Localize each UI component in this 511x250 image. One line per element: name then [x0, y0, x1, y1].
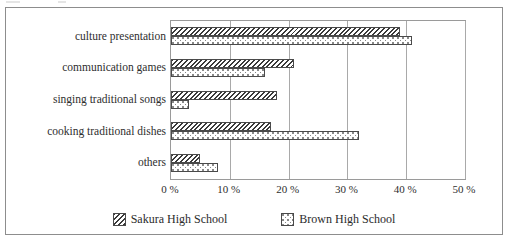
x-tick-label-50: 50 %	[453, 182, 476, 196]
bar-brown	[171, 68, 265, 77]
x-tick-label-20: 20 %	[276, 182, 299, 196]
hatch-swatch-icon	[113, 213, 126, 226]
category-label: communication games	[6, 61, 166, 73]
dots-swatch-icon	[281, 213, 294, 226]
category-label: others	[6, 156, 166, 168]
bar-group	[171, 91, 465, 110]
x-tick-label-30: 30 %	[335, 182, 358, 196]
gridline-50	[465, 21, 466, 179]
scan-artifact	[6, 1, 20, 3]
bar-group	[171, 154, 465, 173]
category-label: cooking traditional dishes	[6, 125, 166, 137]
x-axis-tick-labels: 0 %10 %20 %30 %40 %50 %	[170, 182, 466, 198]
chart-figure-frame: culture presentationcommunication gamess…	[5, 7, 503, 235]
bar-brown	[171, 100, 189, 109]
category-label: singing traditional songs	[6, 93, 166, 105]
legend-label: Sakura High School	[131, 213, 228, 226]
bar-brown	[171, 131, 359, 140]
chart-legend: Sakura High SchoolBrown High School	[6, 206, 502, 232]
legend-item-brown[interactable]: Brown High School	[281, 213, 395, 226]
scan-artifact	[58, 1, 66, 3]
bar-sakura	[171, 59, 294, 68]
x-tick-label-0: 0 %	[161, 182, 178, 196]
bar-group	[171, 122, 465, 141]
bar-brown	[171, 36, 412, 45]
legend-label: Brown High School	[299, 213, 395, 226]
bar-sakura	[171, 27, 400, 36]
plot-area	[170, 20, 466, 180]
x-tick-label-40: 40 %	[394, 182, 417, 196]
bar-sakura	[171, 91, 277, 100]
bar-group	[171, 27, 465, 46]
bar-sakura	[171, 122, 271, 131]
bar-group	[171, 59, 465, 78]
bar-brown	[171, 163, 218, 172]
category-axis-labels: culture presentationcommunication gamess…	[6, 20, 166, 180]
legend-item-sakura[interactable]: Sakura High School	[113, 213, 228, 226]
bar-sakura	[171, 154, 200, 163]
x-tick-label-10: 10 %	[217, 182, 240, 196]
category-label: culture presentation	[6, 30, 166, 42]
